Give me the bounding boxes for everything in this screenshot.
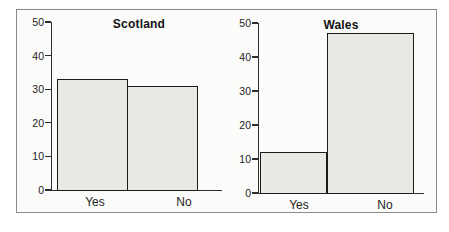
figure: Scotland 01020304050YesNo Wales 01020304… — [0, 0, 449, 232]
figure-frame — [16, 9, 437, 213]
